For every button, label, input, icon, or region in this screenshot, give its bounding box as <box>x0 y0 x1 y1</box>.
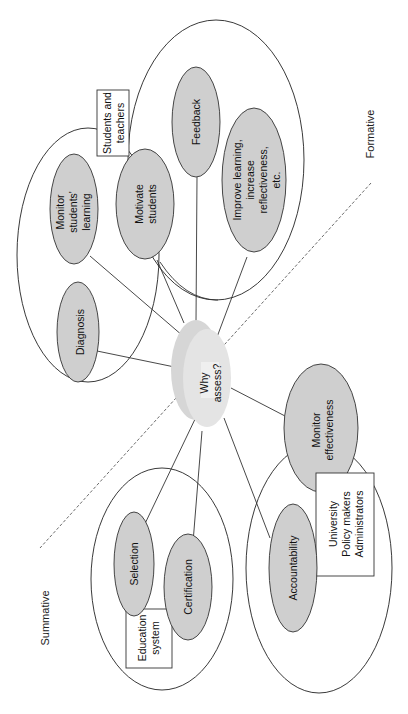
node-diagnosis: Diagnosis <box>57 282 99 382</box>
monitor-effectiveness-line1: Monitor <box>310 412 322 448</box>
monitor-effectiveness-line2: effectiveness <box>323 399 335 460</box>
node-motivate-students: Motivate students <box>116 149 174 259</box>
selection-label: Selection <box>128 542 140 585</box>
why-assess-diagram: Why assess? Diagnosis Monitor students' … <box>0 0 408 714</box>
feedback-label: Feedback <box>190 98 202 145</box>
university-box: University Policy makers Administrators <box>316 473 374 576</box>
center-node: Why assess? <box>171 320 231 427</box>
students-teachers-line2: teachers <box>114 103 126 143</box>
students-teachers-line1: Students and <box>101 92 113 154</box>
education-system-box: Education system <box>126 609 172 668</box>
university-line3: Administrators <box>353 490 365 557</box>
node-feedback: Feedback <box>172 67 220 177</box>
center-label-line1: Why <box>198 372 210 394</box>
improve-line1: Improve learning, <box>231 139 243 220</box>
node-selection: Selection <box>114 512 154 616</box>
monitor-learning-line1: Monitor <box>54 194 66 230</box>
center-label-line2: assess? <box>211 364 223 403</box>
improve-line4: etc. <box>270 172 282 189</box>
education-system-line2: system <box>149 621 161 655</box>
motivate-line1: Motivate <box>133 184 145 224</box>
motivate-curve <box>160 262 218 300</box>
accountability-label: Accountability <box>287 535 299 601</box>
formative-label: Formative <box>364 110 376 159</box>
node-monitor-students-learning: Monitor students' learning <box>50 154 98 264</box>
diagnosis-label: Diagnosis <box>74 309 86 355</box>
monitor-learning-line3: learning <box>80 193 92 231</box>
node-accountability: Accountability <box>269 504 317 632</box>
students-teachers-box: Students and teachers <box>97 90 129 156</box>
improve-line2: increase <box>244 160 256 200</box>
monitor-learning-line2: students' <box>67 191 79 233</box>
motivate-line2: students <box>146 184 158 224</box>
improve-line3: reflectiveness, <box>257 146 269 213</box>
university-line1: University <box>327 500 339 547</box>
summative-label: Summative <box>39 590 51 645</box>
education-system-line1: Education <box>136 614 148 661</box>
node-certification: Certification <box>164 534 212 640</box>
certification-label: Certification <box>182 559 194 615</box>
university-line2: Policy makers <box>340 491 352 556</box>
node-improve-learning: Improve learning, increase reflectivenes… <box>222 108 286 252</box>
